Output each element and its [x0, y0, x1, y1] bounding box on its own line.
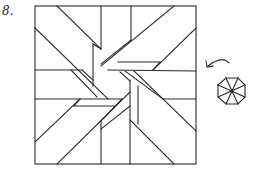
octagon-icon — [218, 78, 245, 104]
rotation-hint — [0, 0, 257, 175]
counterclockwise-arrow-icon — [206, 60, 229, 67]
